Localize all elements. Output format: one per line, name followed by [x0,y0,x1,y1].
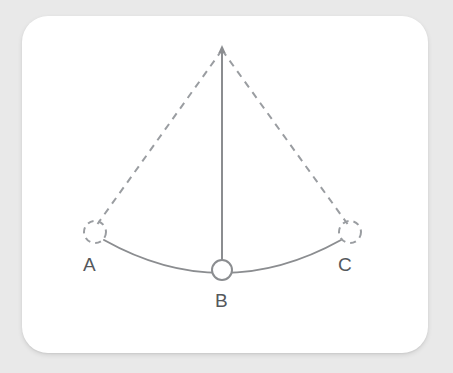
point-label-a: A [83,255,96,274]
string-pivot-to-c [222,50,348,224]
pivot-arrowhead-icon [218,45,225,53]
point-label-b: B [215,291,228,310]
bob-marker-b [212,260,232,280]
bob-marker-a [84,221,106,243]
string-pivot-to-a [98,50,223,224]
point-label-c: C [338,255,352,274]
pendulum-diagram [0,0,453,373]
diagram-stage: A C B [0,0,453,373]
bob-marker-c [339,221,361,243]
